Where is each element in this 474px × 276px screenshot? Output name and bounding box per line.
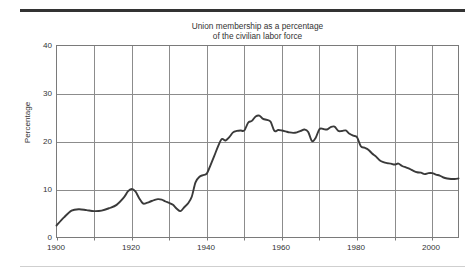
grid-lines <box>57 46 459 238</box>
bottom-divider-rule <box>20 266 465 267</box>
data-series-line <box>57 115 459 225</box>
plot-area <box>0 0 474 276</box>
figure-container: Union membership as a percentage of the … <box>0 0 474 276</box>
plot-frame <box>57 46 459 238</box>
